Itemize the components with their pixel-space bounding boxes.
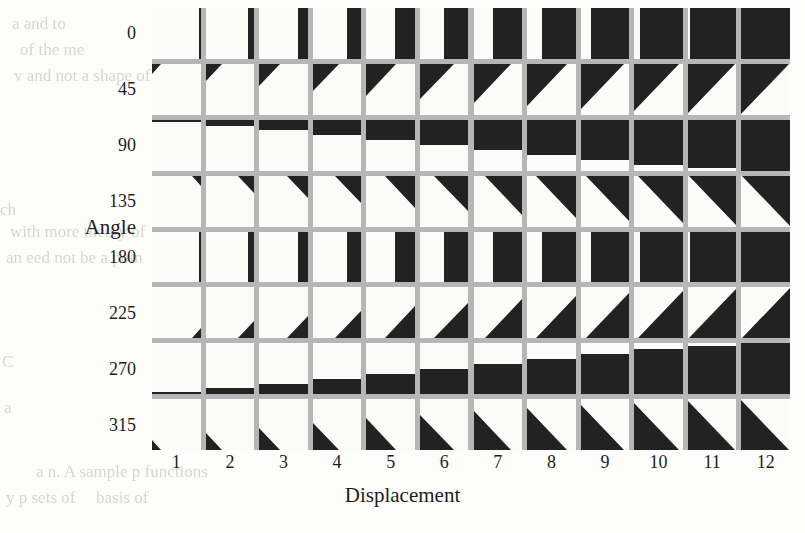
glyph-cell (152, 8, 201, 59)
glyph-cell (527, 8, 576, 59)
glyph-cell (366, 343, 415, 394)
glyph-triangle (581, 64, 624, 109)
glyph-cell (634, 287, 683, 338)
glyph-cell (206, 399, 255, 450)
glyph-cell (474, 120, 523, 171)
y-axis-tick-label: 225 (8, 302, 136, 323)
glyph-cell (527, 399, 576, 450)
glyph-triangle (192, 328, 201, 338)
glyph-cell (313, 287, 362, 338)
glyph-triangle (742, 288, 790, 338)
glyph-cell (259, 232, 308, 283)
glyph-cell (474, 399, 523, 450)
glyph-bar (199, 8, 201, 59)
glyph-triangle (259, 428, 280, 450)
glyph-bar (688, 120, 737, 168)
glyph-cell (152, 232, 201, 283)
glyph-triangle (152, 440, 161, 450)
glyph-triangle (485, 299, 522, 338)
glyph-bar (493, 8, 522, 59)
glyph-triangle (634, 64, 679, 111)
glyph-triangle (385, 306, 415, 338)
glyph-cell (741, 8, 790, 59)
glyph-triangle (366, 64, 396, 96)
glyph-bar (444, 8, 468, 59)
glyph-bar (634, 349, 683, 394)
glyph-cell (206, 343, 255, 394)
x-axis-title: Displacement (0, 483, 805, 508)
glyph-cell (259, 287, 308, 338)
y-axis-tick-label: 180 (8, 246, 136, 267)
glyph-cell (527, 176, 576, 227)
glyph-triangle (688, 401, 735, 450)
x-axis-tick-label: 6 (440, 452, 449, 473)
glyph-bar (741, 120, 790, 171)
x-axis-tick-label: 8 (547, 452, 556, 473)
glyph-cell (634, 343, 683, 394)
glyph-bar (366, 374, 415, 394)
glyph-cell (259, 64, 308, 115)
glyph-bar (206, 120, 255, 126)
x-axis-tick-label: 11 (703, 452, 720, 473)
glyph-triangle (366, 418, 396, 450)
glyph-bar (395, 8, 414, 59)
glyph-cell (474, 176, 523, 227)
glyph-triangle (313, 64, 339, 91)
glyph-cell (206, 176, 255, 227)
glyph-triangle (586, 176, 629, 221)
y-axis-tick-label: 0 (8, 23, 136, 44)
glyph-triangle (688, 64, 735, 113)
glyph-triangle (742, 176, 790, 226)
glyph-cell (634, 399, 683, 450)
glyph-cell (259, 176, 308, 227)
glyph-cell (741, 287, 790, 338)
glyph-triangle (638, 291, 683, 338)
glyph-cell (152, 176, 201, 227)
glyph-cell (313, 8, 362, 59)
glyph-cell (688, 232, 737, 283)
glyph-cell (527, 64, 576, 115)
glyph-triangle (206, 64, 222, 81)
glyph-cell (581, 64, 630, 115)
glyph-bar (474, 120, 523, 151)
glyph-bar (420, 369, 469, 394)
y-axis-title: Angle (8, 215, 136, 240)
glyph-cell (688, 176, 737, 227)
glyph-cell (366, 287, 415, 338)
glyph-triangle (420, 64, 454, 99)
glyph-cell (206, 232, 255, 283)
glyph-cell (259, 343, 308, 394)
glyph-triangle (434, 176, 468, 211)
glyph-cell (366, 120, 415, 171)
glyph-bar (152, 392, 201, 394)
y-axis-tick-label: 270 (8, 358, 136, 379)
glyph-triangle (536, 176, 576, 218)
glyph-triangle (689, 176, 736, 225)
x-axis-tick-label: 1 (172, 452, 181, 473)
glyph-triangle (152, 64, 161, 74)
glyph-triangle (634, 403, 679, 450)
glyph-bar (690, 8, 736, 59)
glyph-triangle (638, 176, 683, 223)
glyph-bar (640, 232, 683, 283)
glyph-triangle (474, 64, 511, 103)
glyph-bar (493, 232, 522, 283)
glyph-cell (688, 343, 737, 394)
glyph-cell (313, 64, 362, 115)
glyph-bar (741, 343, 790, 394)
glyph-cell (366, 8, 415, 59)
glyph-bar (591, 232, 629, 283)
glyph-triangle (581, 405, 624, 450)
figure-root: Angle 04590135180225270315 1234567891011… (0, 0, 805, 533)
glyph-cell (634, 120, 683, 171)
glyph-cell (474, 287, 523, 338)
glyph-bar (347, 232, 362, 283)
glyph-cell (259, 120, 308, 171)
glyph-bar (444, 232, 468, 283)
glyph-cell (688, 287, 737, 338)
glyph-cell (527, 287, 576, 338)
glyph-bar (347, 8, 362, 59)
glyph-cell (741, 64, 790, 115)
glyph-bar (640, 8, 683, 59)
x-axis-tick-label: 5 (386, 452, 395, 473)
